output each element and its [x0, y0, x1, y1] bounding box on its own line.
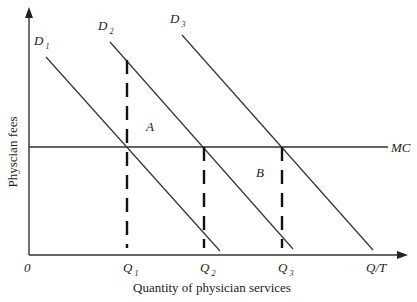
quantity-label-1: Q1	[123, 260, 138, 278]
quantity-label-2: Q2	[200, 260, 215, 278]
x-axis-arrow-icon	[397, 251, 408, 259]
axes	[25, 7, 408, 259]
demand-curve-1	[46, 57, 220, 251]
demand-curve-2	[110, 42, 293, 249]
x-axis-label: Quantity of physician services	[133, 280, 291, 295]
region-label-a: A	[145, 119, 154, 134]
region-label-b: B	[256, 165, 264, 180]
quantity-label-3: Q3	[278, 260, 293, 278]
x-axis-end-label: Q/T	[366, 260, 387, 275]
demand-curve-3	[182, 35, 373, 250]
y-axis-label: Physcian fees	[5, 116, 20, 187]
origin-label: 0	[24, 260, 31, 275]
y-axis-arrow-icon	[25, 7, 33, 18]
demand-curve-label-2: D2	[97, 18, 113, 36]
quantity-labels: Q1Q2Q3	[123, 260, 293, 278]
demand-curve-label-3: D3	[169, 11, 185, 29]
demand-curve-label-1: D1	[33, 33, 49, 51]
economics-diagram: MC D1D2D3 AB 0 Q1Q2Q3 Q/T Quantity of ph…	[0, 0, 417, 302]
mc-label: MC	[390, 140, 411, 155]
demand-curves: D1D2D3	[33, 11, 373, 251]
